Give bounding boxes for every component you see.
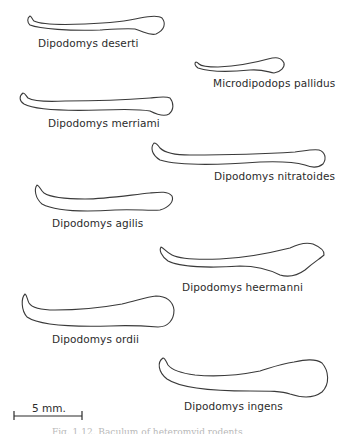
label-deserti: Dipodomys deserti — [38, 37, 139, 49]
baculum-ordii-outline — [22, 294, 174, 327]
label-ordii: Dipodomys ordii — [52, 333, 139, 345]
scale-bar-label: 5 mm. — [32, 402, 66, 414]
label-ingens: Dipodomys ingens — [184, 400, 283, 412]
baculum-deserti-outline — [28, 16, 164, 35]
label-agilis: Dipodomys agilis — [52, 217, 143, 229]
label-merriami: Dipodomys merriami — [48, 117, 160, 129]
baculum-agilis-outline — [35, 185, 172, 211]
label-heermanni: Dipodomys heermanni — [182, 281, 303, 293]
baculum-merriami-outline — [20, 93, 173, 115]
label-nitratoides: Dipodomys nitratoides — [214, 170, 335, 182]
baculum-nitratoides-outline — [152, 143, 325, 167]
label-pallidus: Microdipodops pallidus — [213, 77, 335, 89]
bacula-figure: Dipodomys deserti Microdipodops pallidus… — [0, 0, 350, 434]
baculum-heermanni-outline — [160, 243, 324, 276]
figure-caption: Fig. 1.12. Baculum of heteromyid rodents — [52, 427, 243, 434]
baculum-pallidus-outline — [195, 58, 284, 73]
baculum-ingens-outline — [159, 358, 327, 397]
